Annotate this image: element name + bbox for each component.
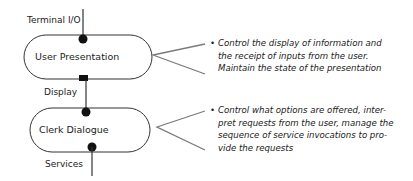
- display-label: Display: [44, 88, 77, 97]
- bullet-icon: •: [210, 37, 215, 50]
- clerk-dialogue-label: Clerk Dialogue: [39, 125, 109, 135]
- services-label: Services: [45, 160, 83, 169]
- display-input-port-dot: [82, 108, 91, 117]
- callout-user-presentation: [153, 44, 205, 74]
- description-line: Maintain the state of the presentation: [218, 62, 382, 75]
- bullet-icon: •: [210, 104, 215, 117]
- terminal-io-port-dot: [79, 35, 88, 44]
- callout-clerk-dialogue: [157, 111, 205, 150]
- user-presentation-description: • Control the display of information and…: [218, 37, 382, 75]
- description-line: pret requests from the user, manage the: [218, 117, 394, 130]
- description-line: Control the display of information and: [218, 37, 382, 50]
- description-line: sequence of service invocations to pro-: [218, 129, 394, 142]
- user-presentation-label: User Presentation: [35, 52, 119, 62]
- display-port-square: [79, 75, 88, 81]
- clerk-dialogue-description: • Control what options are offered, inte…: [218, 104, 394, 154]
- description-line: vide the requests: [218, 142, 394, 155]
- description-line: Control what options are offered, inter-: [218, 104, 394, 117]
- description-line: the receipt of inputs from the user.: [218, 50, 382, 63]
- terminal-io-label: Terminal I/O: [27, 16, 81, 25]
